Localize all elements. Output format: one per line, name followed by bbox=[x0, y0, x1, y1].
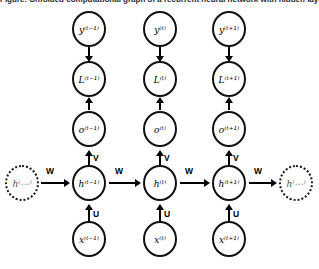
node-L-t: L⁽ᵗ⁾ bbox=[143, 61, 177, 97]
node-y-t-minus-1-label: y⁽ᵗ⁻¹⁾ bbox=[79, 25, 99, 34]
node-x-t-minus-1: x⁽ᵗ⁻¹⁾ bbox=[72, 221, 106, 257]
edge-x-h-t bbox=[159, 209, 161, 221]
edge-h-recurrent-1 bbox=[109, 182, 136, 184]
arrowhead-o-L-t-minus-1 bbox=[85, 97, 93, 103]
arrowhead-x-h-t-plus-1 bbox=[225, 204, 233, 210]
weight-label-v-t-plus-1: V bbox=[233, 154, 239, 163]
node-y-t-label: y⁽ᵗ⁾ bbox=[154, 25, 166, 34]
node-h-t-label: h⁽ᵗ⁾ bbox=[154, 179, 166, 188]
rnn-unfolded-diagram: Figure: Unfolded computational graph of … bbox=[0, 0, 319, 269]
edge-h-o-t-minus-1 bbox=[88, 155, 90, 165]
arrowhead-x-h-t-minus-1 bbox=[85, 204, 93, 210]
node-L-t-minus-1: L⁽ᵗ⁻¹⁾ bbox=[72, 61, 106, 97]
arrowhead-h-o-t bbox=[156, 150, 164, 156]
node-h-t-plus-1-label: h⁽ᵗ⁺¹⁾ bbox=[219, 179, 240, 188]
node-o-t-minus-1: o⁽ᵗ⁻¹⁾ bbox=[72, 111, 106, 147]
arrowhead-h-recurrent-1 bbox=[135, 179, 141, 187]
arrowhead-h-o-t-plus-1 bbox=[225, 150, 233, 156]
node-h-t-minus-1-label: h⁽ᵗ⁻¹⁾ bbox=[79, 179, 100, 188]
node-y-t-plus-1-label: y⁽ᵗ⁺¹⁾ bbox=[219, 25, 239, 34]
node-x-t-minus-1-label: x⁽ᵗ⁻¹⁾ bbox=[79, 235, 99, 244]
edge-h-recurrent-2 bbox=[180, 182, 205, 184]
weight-label-w-3: W bbox=[254, 167, 262, 176]
node-o-t-plus-1-label: o⁽ᵗ⁺¹⁾ bbox=[219, 125, 239, 134]
node-y-t: y⁽ᵗ⁾ bbox=[143, 11, 177, 47]
weight-label-v-t-minus-1: V bbox=[93, 154, 99, 163]
node-y-t-plus-1: y⁽ᵗ⁺¹⁾ bbox=[212, 11, 246, 47]
node-h-prev-ellipsis: h⁽⋯⁾ bbox=[5, 165, 39, 201]
node-o-t-minus-1-label: o⁽ᵗ⁻¹⁾ bbox=[79, 125, 99, 134]
edge-x-h-t-minus-1 bbox=[88, 209, 90, 221]
arrowhead-x-h-t bbox=[156, 204, 164, 210]
node-h-next-ellipsis: h⁽⋯⁾ bbox=[279, 165, 313, 201]
arrowhead-h-recurrent-3 bbox=[271, 179, 277, 187]
node-L-t-plus-1: L⁽ᵗ⁺¹⁾ bbox=[212, 61, 246, 97]
edge-h-recurrent-0 bbox=[41, 182, 65, 184]
figure-title: Figure: Unfolded computational graph of … bbox=[0, 0, 319, 4]
node-h-next-ellipsis-label: h⁽⋯⁾ bbox=[286, 179, 305, 188]
node-x-t-label: x⁽ᵗ⁾ bbox=[154, 235, 166, 244]
node-y-t-minus-1: y⁽ᵗ⁻¹⁾ bbox=[72, 11, 106, 47]
node-L-t-minus-1-label: L⁽ᵗ⁻¹⁾ bbox=[79, 75, 100, 84]
arrowhead-h-o-t-minus-1 bbox=[85, 150, 93, 156]
node-x-t: x⁽ᵗ⁾ bbox=[143, 221, 177, 257]
node-L-t-plus-1-label: L⁽ᵗ⁺¹⁾ bbox=[219, 75, 240, 84]
edge-h-o-t-plus-1 bbox=[228, 155, 230, 165]
node-h-prev-ellipsis-label: h⁽⋯⁾ bbox=[12, 179, 31, 188]
arrowhead-h-recurrent-2 bbox=[204, 179, 210, 187]
arrowhead-o-L-t bbox=[156, 97, 164, 103]
node-o-t-label: o⁽ᵗ⁾ bbox=[154, 125, 166, 134]
node-x-t-plus-1-label: x⁽ᵗ⁺¹⁾ bbox=[219, 235, 239, 244]
arrowhead-o-L-t-plus-1 bbox=[225, 97, 233, 103]
edge-x-h-t-plus-1 bbox=[228, 209, 230, 221]
node-h-t: h⁽ᵗ⁾ bbox=[143, 165, 177, 201]
weight-label-u-t: U bbox=[164, 210, 170, 219]
weight-label-w-2: W bbox=[185, 167, 193, 176]
arrowhead-h-recurrent-0 bbox=[64, 179, 70, 187]
weight-label-u-t-plus-1: U bbox=[233, 210, 239, 219]
weight-label-u-t-minus-1: U bbox=[93, 210, 99, 219]
weight-label-w-0: W bbox=[46, 167, 54, 176]
node-o-t: o⁽ᵗ⁾ bbox=[143, 111, 177, 147]
weight-label-w-1: W bbox=[115, 167, 123, 176]
node-o-t-plus-1: o⁽ᵗ⁺¹⁾ bbox=[212, 111, 246, 147]
weight-label-v-t: V bbox=[164, 154, 170, 163]
node-L-t-label: L⁽ᵗ⁾ bbox=[154, 75, 167, 84]
node-h-t-plus-1: h⁽ᵗ⁺¹⁾ bbox=[212, 165, 246, 201]
edge-h-o-t bbox=[159, 155, 161, 165]
node-h-t-minus-1: h⁽ᵗ⁻¹⁾ bbox=[72, 165, 106, 201]
edge-h-recurrent-3 bbox=[249, 182, 272, 184]
node-x-t-plus-1: x⁽ᵗ⁺¹⁾ bbox=[212, 221, 246, 257]
